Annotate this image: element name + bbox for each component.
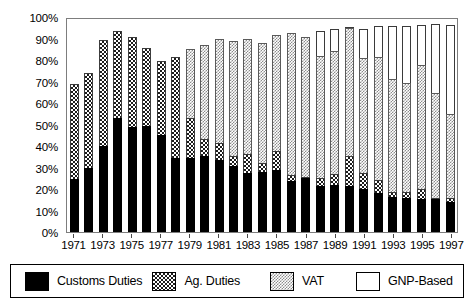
bar-segment-vat — [215, 39, 224, 143]
x-label-slot: 1971 — [69, 239, 78, 255]
x-tick-label: 1997 — [439, 239, 463, 251]
y-tick-label: 0% — [42, 227, 58, 239]
bar-1992[interactable] — [374, 26, 383, 232]
x-label-slot: 1987 — [302, 239, 311, 255]
bar-1974[interactable] — [113, 31, 122, 232]
x-tick-label: 1975 — [119, 239, 143, 251]
bar-1972[interactable] — [84, 73, 93, 232]
bar-1979[interactable] — [186, 49, 195, 232]
bar-1995[interactable] — [417, 25, 426, 232]
bar-segment-customs — [431, 199, 440, 232]
bar-1993[interactable] — [388, 26, 397, 232]
bar-segment-ag — [70, 84, 79, 180]
bar-1986[interactable] — [287, 33, 296, 232]
bar-segment-customs — [316, 186, 325, 232]
bar-1982[interactable] — [229, 41, 238, 232]
bar-1981[interactable] — [215, 39, 224, 232]
bar-segment-vat — [316, 56, 325, 179]
bar-1994[interactable] — [402, 26, 411, 232]
x-label-slot: 1983 — [243, 239, 252, 255]
bar-segment-customs — [374, 193, 383, 232]
legend-swatch-customs-icon — [25, 272, 49, 291]
y-tick-label: 90% — [36, 34, 58, 46]
bar-segment-customs — [446, 202, 455, 232]
bar-segment-customs — [301, 178, 310, 232]
bar-segment-ag — [113, 31, 122, 118]
bar-1973[interactable] — [99, 40, 108, 232]
bar-segment-ag — [258, 163, 267, 172]
bar-segment-vat — [301, 37, 310, 177]
bar-segment-gnp — [402, 26, 411, 83]
bar-segment-ag — [345, 156, 354, 186]
bar-1988[interactable] — [316, 31, 325, 232]
bar-1977[interactable] — [157, 61, 166, 232]
bar-segment-customs — [171, 158, 180, 232]
bar-segment-customs — [157, 135, 166, 232]
bar-segment-customs — [330, 185, 339, 232]
x-label-slot: 1985 — [272, 239, 281, 255]
bar-1983[interactable] — [243, 39, 252, 232]
bar-segment-vat — [388, 79, 397, 192]
bar-1987[interactable] — [301, 37, 310, 232]
bar-1984[interactable] — [258, 43, 267, 232]
bar-1985[interactable] — [272, 35, 281, 232]
bar-1997[interactable] — [446, 25, 455, 232]
bar-segment-customs — [287, 181, 296, 232]
bar-segment-customs — [128, 127, 137, 232]
bar-1978[interactable] — [171, 57, 180, 232]
bar-segment-vat — [243, 39, 252, 154]
bar-segment-gnp — [316, 31, 325, 56]
bar-segment-ag — [84, 73, 93, 168]
bar-segment-vat — [402, 83, 411, 193]
bar-segment-customs — [417, 199, 426, 232]
bar-segment-customs — [359, 189, 368, 232]
bar-1980[interactable] — [200, 45, 209, 232]
bar-segment-vat — [330, 51, 339, 174]
bar-segment-ag — [229, 156, 238, 167]
bar-segment-customs — [99, 146, 108, 232]
bar-segment-ag — [243, 154, 252, 173]
legend-item-gnp[interactable]: GNP-Based — [356, 272, 453, 291]
y-axis: 100%90%80%70%60%50%40%30%20%10%0% — [0, 18, 62, 233]
legend-swatch-gnp-icon — [356, 272, 380, 291]
bar-segment-gnp — [431, 24, 440, 94]
x-label-slot: 1973 — [98, 239, 107, 255]
legend-item-ag[interactable]: Ag. Duties — [152, 272, 240, 291]
bar-segment-vat — [258, 43, 267, 163]
legend-item-customs[interactable]: Customs Duties — [25, 272, 142, 291]
bar-1991[interactable] — [359, 29, 368, 232]
bar-1971[interactable] — [70, 84, 79, 232]
bar-segment-customs — [142, 126, 151, 232]
x-tick-label: 1973 — [90, 239, 114, 251]
bar-1976[interactable] — [142, 48, 151, 232]
bar-segment-customs — [243, 173, 252, 232]
bar-1989[interactable] — [330, 29, 339, 232]
bar-segment-gnp — [330, 29, 339, 52]
x-tick-label: 1985 — [265, 239, 289, 251]
y-tick-label: 30% — [36, 163, 58, 175]
legend-item-vat[interactable]: VAT — [270, 272, 324, 291]
bar-segment-ag — [359, 173, 368, 189]
chart-legend: Customs DutiesAg. DutiesVATGNP-Based — [10, 264, 464, 298]
bar-segment-ag — [99, 40, 108, 146]
bar-segment-customs — [258, 172, 267, 232]
legend-label: Customs Duties — [57, 274, 142, 288]
bar-segment-customs — [272, 170, 281, 232]
y-tick-label: 20% — [36, 184, 58, 196]
bar-segment-ag — [171, 57, 180, 158]
bar-segment-vat — [431, 93, 440, 197]
x-tick-label: 1989 — [323, 239, 347, 251]
legend-swatch-vat-icon — [270, 272, 294, 291]
bar-segment-ag — [200, 139, 209, 156]
x-tick-label: 1971 — [61, 239, 85, 251]
bar-1990[interactable] — [345, 27, 354, 232]
bar-1975[interactable] — [128, 37, 137, 232]
bar-segment-vat — [229, 41, 238, 156]
x-label-slot: 1993 — [389, 239, 398, 255]
bar-1996[interactable] — [431, 24, 440, 232]
x-tick-label: 1983 — [236, 239, 260, 251]
bar-segment-customs — [200, 156, 209, 232]
bar-segment-customs — [402, 198, 411, 232]
x-tick-label: 1977 — [148, 239, 172, 251]
chart-root: 100%90%80%70%60%50%40%30%20%10%0% 197119… — [0, 0, 474, 308]
